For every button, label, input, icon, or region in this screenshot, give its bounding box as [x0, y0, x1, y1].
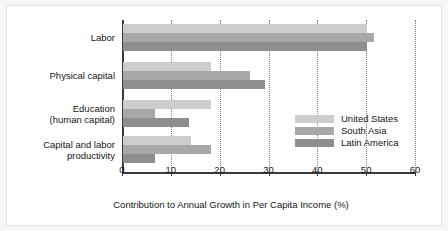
bar — [123, 118, 189, 127]
x-axis-tick-label: 50 — [361, 164, 372, 175]
x-axis-tick-label: 60 — [410, 164, 421, 175]
bar — [123, 136, 191, 145]
legend-item: Latin America — [295, 137, 415, 148]
x-axis-tick-label: 0 — [119, 164, 124, 175]
category-label: Labor — [11, 32, 115, 43]
plot-area — [122, 20, 415, 172]
bar — [123, 71, 250, 80]
bar — [123, 42, 367, 51]
x-axis-tick-label: 30 — [263, 164, 274, 175]
chart-figure: LaborPhysical capitalEducation(human cap… — [0, 0, 448, 231]
bar-group — [123, 24, 416, 51]
category-label-line: Capital and labor — [11, 139, 115, 150]
x-axis-title: Contribution to Annual Growth in Per Cap… — [7, 199, 448, 210]
legend-item: United States — [295, 113, 415, 124]
bar — [123, 33, 374, 42]
x-axis-tick-label: 20 — [214, 164, 225, 175]
category-label-line: (human capital) — [11, 114, 115, 125]
category-label: Education(human capital) — [11, 103, 115, 125]
category-label-line: Labor — [11, 32, 115, 43]
legend-item: South Asia — [295, 125, 415, 136]
category-label: Capital and laborproductivity — [11, 139, 115, 161]
bar — [123, 109, 155, 118]
chart-legend: United StatesSouth AsiaLatin America — [295, 113, 415, 149]
category-label-line: Physical capital — [11, 70, 115, 81]
bar — [123, 80, 265, 89]
legend-label: Latin America — [341, 137, 399, 148]
category-label-line: Education — [11, 103, 115, 114]
chart-frame: LaborPhysical capitalEducation(human cap… — [6, 5, 442, 226]
x-axis-tick-label: 40 — [312, 164, 323, 175]
legend-swatch — [295, 115, 334, 123]
bar — [123, 62, 211, 71]
bar — [123, 24, 367, 33]
legend-swatch — [295, 127, 334, 135]
legend-label: United States — [341, 113, 398, 124]
legend-label: South Asia — [341, 125, 386, 136]
bar — [123, 154, 155, 163]
bar — [123, 145, 211, 154]
bar — [123, 100, 211, 109]
x-axis-tick-label: 10 — [166, 164, 177, 175]
category-axis-labels: LaborPhysical capitalEducation(human cap… — [7, 20, 115, 172]
legend-swatch — [295, 139, 334, 147]
bar-group — [123, 62, 416, 89]
category-label-line: productivity — [11, 150, 115, 161]
category-label: Physical capital — [11, 70, 115, 81]
